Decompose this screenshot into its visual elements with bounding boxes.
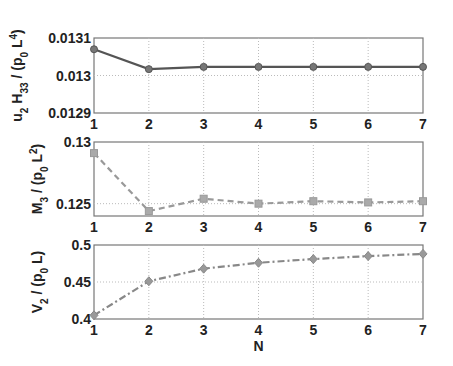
y-tick-label: 0.0131 bbox=[48, 30, 91, 46]
x-tick-label: 5 bbox=[309, 219, 317, 235]
x-tick-label: 4 bbox=[255, 219, 263, 235]
x-tick-label: 2 bbox=[145, 116, 153, 132]
x-tick-label: 3 bbox=[200, 322, 208, 338]
y-axis-label: u2 H33 / (p0 L4) bbox=[8, 29, 30, 121]
x-tick-label: 7 bbox=[419, 322, 427, 338]
x-tick-label: 1 bbox=[90, 219, 98, 235]
y-tick-label: 0.5 bbox=[72, 237, 92, 253]
y-tick-label: 0.0129 bbox=[48, 105, 91, 121]
data-point-marker bbox=[365, 199, 372, 206]
data-point-marker bbox=[145, 66, 152, 73]
x-tick-label: 2 bbox=[145, 219, 153, 235]
x-tick-label: 6 bbox=[364, 219, 372, 235]
data-point-marker bbox=[145, 208, 152, 215]
x-tick-label: 6 bbox=[364, 116, 372, 132]
data-point-marker bbox=[310, 198, 317, 205]
y-tick-label: 0.45 bbox=[64, 274, 91, 290]
subplot-1: 12345670.01290.0130.0131u2 H33 / (p0 L4) bbox=[8, 29, 428, 132]
data-point-marker bbox=[200, 195, 207, 202]
y-axis-label: V2 / (p0 L) bbox=[29, 251, 50, 313]
data-point-marker bbox=[91, 46, 98, 53]
data-point-marker bbox=[91, 150, 98, 157]
y-tick-label: 0.125 bbox=[56, 196, 91, 212]
x-tick-label: 6 bbox=[364, 322, 372, 338]
data-point-marker bbox=[365, 63, 372, 70]
x-tick-label: 3 bbox=[200, 219, 208, 235]
y-tick-label: 0.4 bbox=[72, 311, 92, 327]
x-tick-label: 5 bbox=[309, 322, 317, 338]
y-tick-label: 0.013 bbox=[56, 68, 91, 84]
data-point-marker bbox=[255, 200, 262, 207]
x-tick-label: 7 bbox=[419, 219, 427, 235]
x-tick-label: 2 bbox=[145, 322, 153, 338]
data-point-marker bbox=[420, 63, 427, 70]
subplot-2: 12345670.1250.13M3 / (p0 L2) bbox=[28, 134, 428, 235]
x-axis-label: N bbox=[253, 338, 263, 354]
x-tick-label: 1 bbox=[90, 116, 98, 132]
y-tick-label: 0.13 bbox=[64, 134, 91, 150]
subplot-3: 12345670.40.450.5V2 / (p0 L)N bbox=[29, 237, 427, 354]
figure: 12345670.01290.0130.0131u2 H33 / (p0 L4)… bbox=[0, 0, 453, 366]
data-point-marker bbox=[255, 63, 262, 70]
data-point-marker bbox=[420, 198, 427, 205]
x-tick-label: 4 bbox=[255, 116, 263, 132]
x-tick-label: 7 bbox=[419, 116, 427, 132]
x-tick-label: 5 bbox=[309, 116, 317, 132]
y-axis-label: M3 / (p0 L2) bbox=[28, 144, 50, 214]
x-tick-label: 3 bbox=[200, 116, 208, 132]
x-tick-label: 4 bbox=[255, 322, 263, 338]
data-point-marker bbox=[200, 63, 207, 70]
x-tick-label: 1 bbox=[90, 322, 98, 338]
data-point-marker bbox=[310, 63, 317, 70]
